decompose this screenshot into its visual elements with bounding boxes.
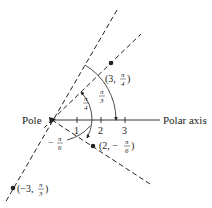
svg-text:4: 4 (84, 104, 88, 112)
svg-text:6: 6 (58, 144, 62, 152)
point-minus-3-pi-over-3 (11, 186, 16, 191)
point-label-3-pi-over-4: (3, π 4 ) (105, 71, 130, 88)
angle-label-pi-over-3: π 3 (99, 88, 105, 105)
angle-label-pi-over-4: π 4 (83, 95, 89, 112)
svg-text:π: π (84, 95, 88, 103)
svg-text:4: 4 (121, 80, 125, 88)
point-label-2-minus-pi-over-6: (2, − π 6 ) (99, 138, 134, 155)
svg-text:3: 3 (38, 190, 43, 198)
svg-text:−: − (48, 137, 53, 147)
polar-diagram: 1 2 3 Pole Polar axis π 4 π 3 − π 6 (0, 0, 212, 208)
point-2-minus-pi-over-6 (91, 144, 96, 149)
svg-text:π: π (125, 138, 129, 146)
point-3-pi-over-4 (109, 61, 114, 66)
svg-text:π: π (121, 71, 125, 79)
svg-text:): ) (131, 140, 134, 152)
svg-text:(3,: (3, (105, 73, 116, 85)
svg-text:): ) (127, 73, 130, 85)
svg-text:π: π (58, 135, 62, 143)
svg-text:6: 6 (125, 147, 129, 155)
pole-marker (49, 117, 56, 124)
angle-label-minus-pi-over-6: − π 6 (48, 135, 63, 152)
tick-label-2: 2 (98, 125, 103, 136)
ray-pi-over-3 (5, 10, 117, 203)
svg-text:3: 3 (99, 97, 104, 105)
svg-text:): ) (45, 183, 48, 195)
svg-text:π: π (39, 181, 43, 189)
point-label-minus-3-pi-over-3: (−3, π 3 ) (17, 181, 48, 198)
polar-axis-label: Polar axis (163, 114, 207, 126)
svg-text:(2, −: (2, − (99, 140, 118, 152)
tick-label-3: 3 (122, 125, 127, 136)
svg-text:(−3,: (−3, (17, 183, 33, 195)
svg-text:π: π (100, 88, 104, 96)
pole-label: Pole (22, 114, 42, 126)
